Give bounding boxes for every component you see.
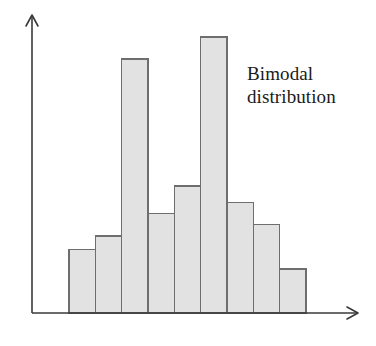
histogram-bar xyxy=(253,225,279,313)
annotation-bimodal-distribution: Bimodal distribution xyxy=(247,62,336,108)
chart-figure: Bimodal distribution xyxy=(0,0,376,346)
histogram-bar xyxy=(174,186,200,313)
histogram-bar xyxy=(122,59,148,313)
histogram-bar xyxy=(227,203,253,313)
histogram-bar xyxy=(69,250,95,313)
annotation-line-2: distribution xyxy=(247,85,336,108)
histogram-bar xyxy=(95,236,121,313)
annotation-line-1: Bimodal xyxy=(247,62,336,85)
histogram-bar xyxy=(148,214,174,313)
histogram-svg xyxy=(0,0,376,346)
histogram-bar xyxy=(280,269,306,313)
histogram-bar xyxy=(201,37,227,313)
